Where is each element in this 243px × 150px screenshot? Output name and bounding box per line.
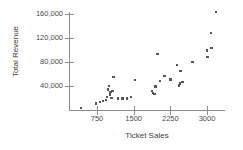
data-point: [130, 96, 132, 98]
data-point: [191, 61, 193, 63]
data-point: [121, 97, 123, 99]
data-point: [117, 97, 119, 99]
data-point: [156, 53, 158, 55]
data-point: [110, 97, 112, 99]
y-axis-tick: [65, 86, 74, 87]
y-axis-tick-label: 120,000: [15, 34, 63, 42]
x-axis-tick-label: 750: [77, 115, 117, 123]
y-axis-tick: [65, 38, 74, 39]
x-axis-tick-label: 3000: [187, 115, 227, 123]
data-point: [181, 81, 183, 83]
data-point: [109, 93, 111, 95]
y-axis-tick-label: 40,000: [15, 82, 63, 90]
data-point: [176, 64, 178, 66]
y-axis-tick: [65, 14, 74, 15]
chart-plot-area: 40,00080,000120,000160,000 7501500225030…: [0, 0, 243, 150]
data-point: [106, 96, 108, 98]
data-point: [134, 79, 136, 81]
data-point: [210, 47, 212, 49]
data-point: [126, 97, 128, 99]
x-axis-title: Ticket Sales: [69, 131, 225, 140]
y-axis-tick-label: 80,000: [15, 58, 63, 66]
data-point: [80, 107, 82, 109]
data-point: [206, 49, 208, 51]
data-point: [169, 78, 171, 80]
data-point: [210, 32, 212, 34]
data-point: [154, 85, 156, 87]
scatter-plot-screenshot: 40,00080,000120,000160,000 7501500225030…: [0, 0, 243, 150]
x-axis-tick-label: 1500: [114, 115, 154, 123]
data-point: [108, 85, 110, 87]
data-point: [215, 11, 217, 13]
data-point: [163, 75, 165, 77]
y-axis-tick-label: 160,000: [15, 10, 63, 18]
x-axis-line: [69, 110, 225, 111]
x-axis-tick-label: 2250: [150, 115, 190, 123]
data-point: [95, 102, 97, 104]
data-point: [179, 70, 181, 72]
data-point: [206, 56, 208, 58]
data-point: [105, 99, 107, 101]
data-point: [112, 76, 114, 78]
y-axis-title: Total Revenue: [11, 12, 20, 92]
data-point: [153, 93, 155, 95]
data-point: [111, 90, 113, 92]
data-point: [159, 80, 161, 82]
y-axis-tick: [65, 62, 74, 63]
